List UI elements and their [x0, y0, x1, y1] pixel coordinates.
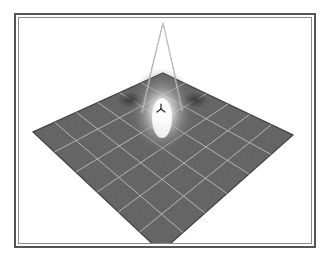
render-canvas	[0, 0, 328, 262]
